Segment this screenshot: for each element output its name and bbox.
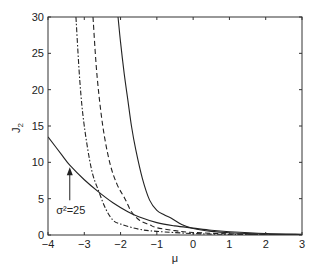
y-tick-label: 25: [32, 47, 44, 59]
x-tick-label: −2: [114, 238, 127, 250]
x-tick-label: 3: [299, 238, 305, 250]
series--25: [48, 137, 302, 234]
y-tick-label: 15: [32, 120, 44, 132]
arrow-head-icon: [67, 167, 73, 175]
plot-frame: [48, 17, 302, 235]
y-tick-label: 30: [32, 11, 44, 23]
x-tick-label: 1: [226, 238, 232, 250]
y-tick-label: 0: [38, 229, 44, 241]
series-steep-solid: [118, 17, 302, 235]
series-layer: [48, 17, 302, 235]
x-tick-label: 0: [190, 238, 196, 250]
y-tick-label: 5: [38, 193, 44, 205]
y-tick-label: 10: [32, 156, 44, 168]
series-dash-dot: [76, 17, 302, 235]
series-dashed: [93, 17, 302, 235]
line-chart: −4−3−2−10123 051015202530 μ J2 σ²=25: [0, 0, 318, 272]
svg-text:J2: J2: [10, 122, 25, 133]
x-tick-label: −1: [151, 238, 164, 250]
y-tick-label: 20: [32, 84, 44, 96]
y-axis-label-subscript: 2: [16, 122, 25, 127]
annotation-sigma: σ²=25: [56, 167, 85, 216]
annotation-label: σ²=25: [56, 204, 85, 216]
y-axis-label: J2: [10, 122, 25, 133]
x-axis-label: μ: [172, 252, 178, 264]
x-tick-label: 2: [263, 238, 269, 250]
x-tick-label: −3: [78, 238, 91, 250]
